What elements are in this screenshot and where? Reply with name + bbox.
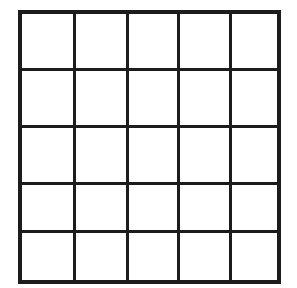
grid-cell[interactable] [230, 183, 279, 231]
grid-cell[interactable] [20, 183, 74, 231]
grid-cell-layer [20, 12, 279, 282]
grid-cell[interactable] [127, 12, 178, 69]
grid-cell[interactable] [20, 69, 74, 126]
grid-cell[interactable] [74, 12, 127, 69]
grid-cell[interactable] [178, 69, 230, 126]
grid-cell[interactable] [178, 12, 230, 69]
grid-cell[interactable] [230, 231, 279, 282]
grid-cell[interactable] [230, 12, 279, 69]
grid-cell[interactable] [127, 231, 178, 282]
grid-cell[interactable] [178, 231, 230, 282]
figure-canvas [0, 0, 297, 288]
grid-diagram [0, 0, 297, 288]
grid-cell[interactable] [20, 231, 74, 282]
grid-cell[interactable] [127, 183, 178, 231]
grid-cell[interactable] [20, 12, 74, 69]
grid-cell[interactable] [230, 69, 279, 126]
grid-cell[interactable] [20, 126, 74, 183]
grid-cell[interactable] [178, 183, 230, 231]
grid-cell[interactable] [127, 69, 178, 126]
grid-cell[interactable] [74, 69, 127, 126]
grid-cell[interactable] [74, 126, 127, 183]
grid-cell[interactable] [230, 126, 279, 183]
grid-cell[interactable] [178, 126, 230, 183]
grid-svg [0, 0, 297, 288]
grid-cell[interactable] [74, 231, 127, 282]
grid-cell[interactable] [127, 126, 178, 183]
grid-cell[interactable] [74, 183, 127, 231]
